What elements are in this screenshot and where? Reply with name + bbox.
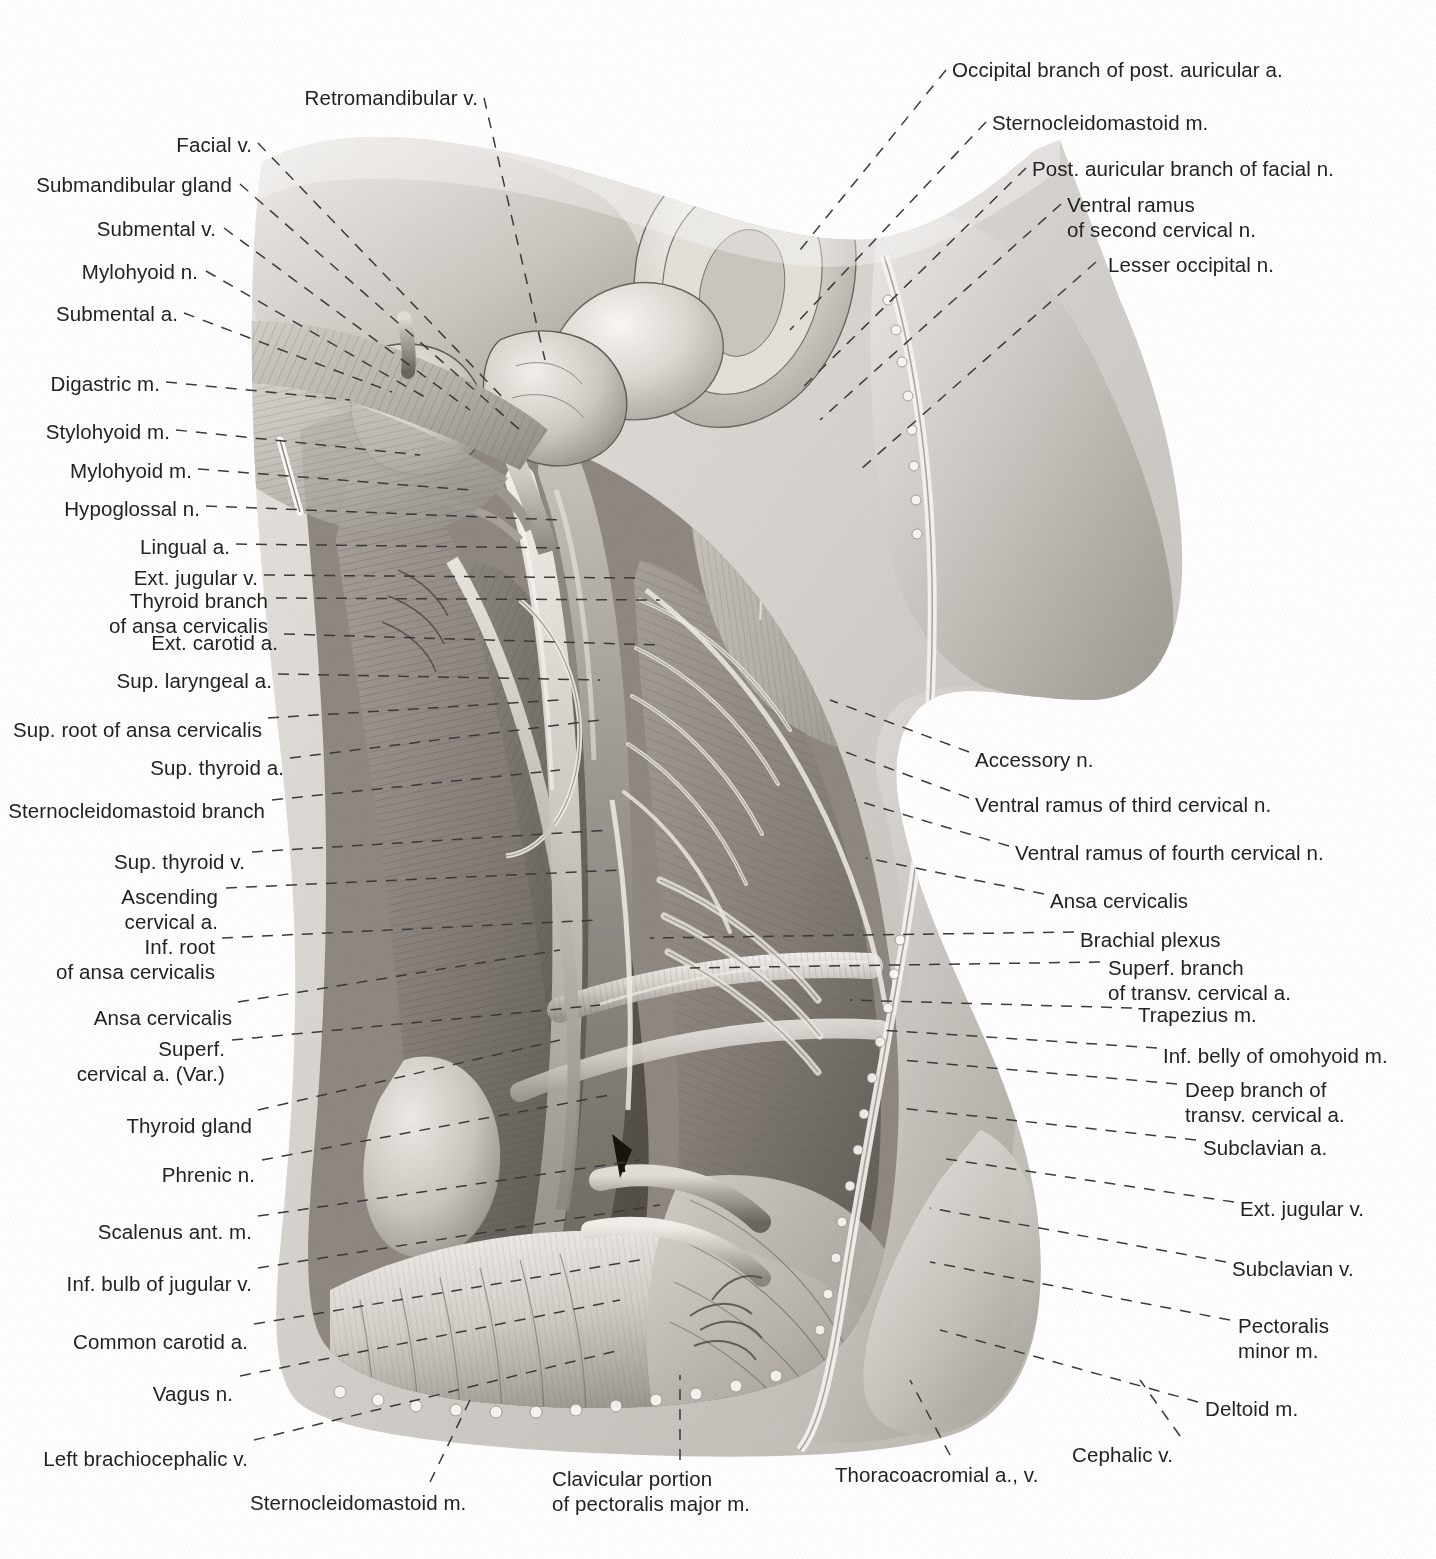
label-submental-a: Submental a. [56,301,178,326]
label-sup-root-ansa-cervicalis: Sup. root of ansa cervicalis [13,717,262,742]
label-sternocleidomastoid-m-bottom: Sternocleidomastoid m. [250,1490,466,1515]
label-sup-thyroid-v: Sup. thyroid v. [114,849,245,874]
label-inf-belly-omohyoid-m: Inf. belly of omohyoid m. [1163,1043,1388,1068]
label-scalenus-ant-m: Scalenus ant. m. [98,1219,252,1244]
label-deep-branch-transv-cervical-a: Deep branch of transv. cervical a. [1185,1077,1345,1127]
label-left-brachiocephalic-v: Left brachiocephalic v. [43,1446,248,1471]
label-superf-cervical-a-var: Superf. cervical a. (Var.) [77,1036,225,1086]
label-inf-bulb-of-jugular-v: Inf. bulb of jugular v. [67,1271,252,1296]
label-superf-branch-transv-cervical-a: Superf. branch of transv. cervical a. [1108,955,1291,1005]
label-thyroid-gland: Thyroid gland [126,1113,252,1138]
label-ext-jugular-v-upper: Ext. jugular v. [134,565,258,590]
label-mylohyoid-n: Mylohyoid n. [82,259,198,284]
label-trapezius-m: Trapezius m. [1138,1002,1257,1027]
label-cephalic-v: Cephalic v. [1072,1442,1173,1467]
anatomy-plate: Retromandibular v.Facial v.Submandibular… [0,0,1436,1559]
label-deltoid-m: Deltoid m. [1205,1396,1298,1421]
label-clavicular-portion-pectoralis-major-m: Clavicular portion of pectoralis major m… [552,1466,750,1516]
label-hypoglossal-n: Hypoglossal n. [64,496,200,521]
label-mylohyoid-m: Mylohyoid m. [70,458,192,483]
label-facial-v: Facial v. [176,132,252,157]
label-ascending-cervical-a: Ascending cervical a. [121,884,218,934]
label-ventral-ramus-third-cervical-n: Ventral ramus of third cervical n. [975,792,1271,817]
label-sternocleidomastoid-m-top: Sternocleidomastoid m. [992,110,1208,135]
label-ansa-cervicalis-right: Ansa cervicalis [1050,888,1188,913]
label-pectoralis-minor-m: Pectoralis minor m. [1238,1313,1329,1363]
label-lesser-occipital-n: Lesser occipital n. [1108,252,1274,277]
label-phrenic-n: Phrenic n. [162,1162,255,1187]
label-lingual-a: Lingual a. [140,534,230,559]
label-retromandibular-v: Retromandibular v. [305,85,478,110]
label-digastric-m: Digastric m. [51,371,160,396]
label-submandibular-gland: Submandibular gland [36,172,232,197]
label-ventral-ramus-fourth-cervical-n: Ventral ramus of fourth cervical n. [1015,840,1324,865]
label-sternocleidomastoid-branch: Sternocleidomastoid branch [8,798,265,823]
label-thoracoacromial-a-v: Thoracoacromial a., v. [835,1462,1038,1487]
label-accessory-n: Accessory n. [975,747,1094,772]
label-vagus-n: Vagus n. [153,1381,233,1406]
label-submental-v: Submental v. [97,216,216,241]
label-subclavian-v: Subclavian v. [1232,1256,1354,1281]
label-subclavian-a: Subclavian a. [1203,1135,1327,1160]
label-common-carotid-a: Common carotid a. [73,1329,248,1354]
label-ext-jugular-v-lower: Ext. jugular v. [1240,1196,1364,1221]
label-ext-carotid-a: Ext. carotid a. [151,630,278,655]
label-occipital-branch-post-auricular-a: Occipital branch of post. auricular a. [952,57,1283,82]
label-sup-laryngeal-a: Sup. laryngeal a. [116,668,272,693]
label-inf-root-ansa-cervicalis: Inf. root of ansa cervicalis [56,934,215,984]
label-ansa-cervicalis-left: Ansa cervicalis [94,1005,232,1030]
label-stylohyoid-m: Stylohyoid m. [46,419,170,444]
label-brachial-plexus: Brachial plexus [1080,927,1221,952]
label-sup-thyroid-a: Sup. thyroid a. [150,755,284,780]
label-post-auricular-branch-facial-n: Post. auricular branch of facial n. [1032,156,1334,181]
label-ventral-ramus-second-cervical-n: Ventral ramus of second cervical n. [1067,192,1256,242]
